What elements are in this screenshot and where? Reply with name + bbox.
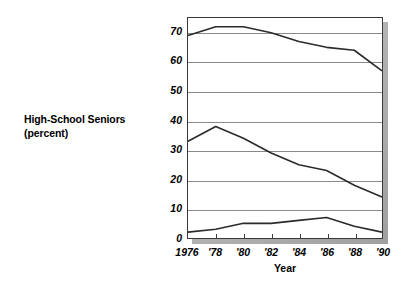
x-tick-label-88: '88 [348, 246, 362, 258]
series-line-cocaine [188, 217, 382, 232]
x-tick-label-82: '82 [264, 246, 278, 258]
y-tick-label-40: 40 [152, 114, 182, 126]
y-tick-label-10: 10 [152, 202, 182, 214]
x-axis-tick-labels: 1976'78'80'82'84'86'88'90 [187, 246, 383, 262]
x-tick-label-1976: 1976 [175, 246, 198, 258]
y-tick-label-0: 0 [152, 232, 182, 244]
x-tick-label-80: '80 [236, 246, 250, 258]
y-tick-label-30: 30 [152, 143, 182, 155]
series-line-alcohol [188, 27, 382, 71]
x-axis-title: Year [187, 262, 383, 274]
x-tick-label-78: '78 [208, 246, 222, 258]
series-line-marijuana-hashish [188, 127, 382, 197]
y-tick-label-20: 20 [152, 173, 182, 185]
chart-figure: High-School Seniors (percent) 0102030405… [0, 0, 414, 293]
y-axis-tick-labels: 010203040506070 [152, 17, 182, 239]
y-tick-label-60: 60 [152, 54, 182, 66]
y-axis-caption-line1: High-School Seniors [24, 113, 125, 125]
plot-area: Alcohol Marijuana/ hashish Cocaine [187, 17, 383, 239]
x-tick-label-90: '90 [376, 246, 390, 258]
x-tick-label-84: '84 [292, 246, 306, 258]
series-lines [188, 18, 382, 238]
x-tick-label-86: '86 [320, 246, 334, 258]
y-tick-label-70: 70 [152, 25, 182, 37]
y-tick-label-50: 50 [152, 84, 182, 96]
